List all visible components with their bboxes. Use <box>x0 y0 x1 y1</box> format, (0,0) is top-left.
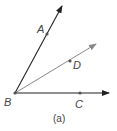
point-d <box>68 59 71 62</box>
ray-bd <box>15 44 96 93</box>
label-d: D <box>73 59 81 71</box>
point-c <box>78 91 81 94</box>
angle-diagram: A D B C (a) <box>0 0 117 131</box>
label-b: B <box>4 96 11 108</box>
label-a: A <box>36 23 44 35</box>
point-b <box>13 91 16 94</box>
ray-ba <box>15 6 62 93</box>
point-a <box>45 32 48 35</box>
caption: (a) <box>53 113 65 124</box>
label-c: C <box>75 98 83 110</box>
